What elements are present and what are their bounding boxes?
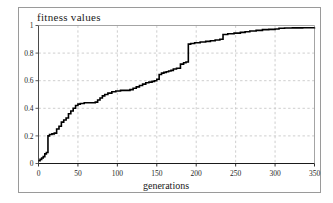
data-series (39, 28, 315, 161)
x-tick-label: 250 (230, 169, 242, 178)
x-axis-title: generations (143, 180, 189, 191)
y-tick-label: 0.6 (24, 76, 34, 85)
y-tick-label: 0.2 (24, 132, 34, 141)
x-tick-label: 150 (151, 169, 163, 178)
series-line (39, 28, 315, 161)
x-tick-label: 300 (269, 169, 281, 178)
x-tick-label: 50 (74, 169, 82, 178)
figure-container: fitness values 00.20.40.60.8105010015020… (0, 0, 333, 203)
x-tick-label: 200 (191, 169, 203, 178)
gridlines (39, 26, 315, 164)
x-tick-label: 100 (112, 169, 124, 178)
tick-marks (36, 26, 315, 167)
y-tick-label: 1 (30, 21, 34, 30)
tick-labels: 00.20.40.60.81050100150200250300350 (24, 21, 320, 177)
fitness-chart: 00.20.40.60.81050100150200250300350 gene… (0, 0, 333, 203)
x-tick-label: 350 (309, 169, 321, 178)
axes (39, 26, 315, 164)
y-tick-label: 0.8 (24, 49, 34, 58)
y-tick-label: 0 (30, 159, 34, 168)
x-tick-label: 0 (37, 169, 41, 178)
y-tick-label: 0.4 (24, 104, 34, 113)
